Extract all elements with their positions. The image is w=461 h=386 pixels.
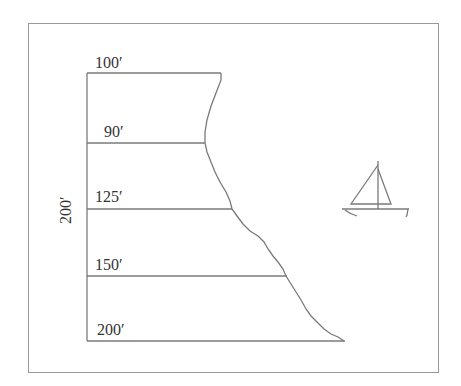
lot-label-4: 150′ [95,257,123,273]
shoreline [205,73,344,341]
lot-label-1: 100′ [95,55,123,71]
lot-diagram [0,0,461,386]
sailboat-icon [342,161,409,217]
total-height-label: 200′ [58,197,74,225]
lot-label-5: 200′ [97,322,125,338]
lot-label-2: 90′ [104,124,124,140]
lot-label-3: 125′ [95,189,123,205]
